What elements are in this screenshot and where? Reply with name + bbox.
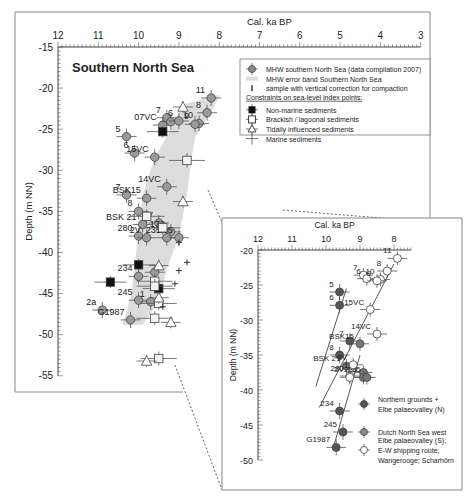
- x-tick-label: 12: [52, 30, 64, 41]
- legend-label: Marine sediments: [266, 136, 322, 143]
- x-tick-label: 8: [216, 30, 222, 41]
- legend-label: Dutch North Sea west: [378, 429, 446, 436]
- y-tick-label: -50: [39, 329, 54, 340]
- x-axis-label: Cal. ka BP: [314, 220, 354, 230]
- legend-label: Elbe palaeovalley (S);: [378, 437, 446, 445]
- y-tick-label: -30: [240, 316, 253, 326]
- y-tick-label: -25: [240, 281, 253, 291]
- legend-label: Elbe palaeovalley (N): [378, 406, 445, 414]
- point-label: 3V: [337, 353, 347, 362]
- point-label: 15VC: [344, 298, 364, 307]
- point-label: G1987: [306, 435, 331, 444]
- point-label: 9: [184, 111, 189, 121]
- y-tick-label: -45: [240, 421, 253, 431]
- point-label: 2V: [130, 225, 141, 235]
- point-label: 6: [168, 108, 173, 118]
- data-point: [137, 355, 157, 367]
- legend-label: MHW error band Southern North Sea: [266, 76, 382, 83]
- y-tick-label: -40: [39, 247, 54, 258]
- legend-heading: Constraints on sea-level index points:: [246, 94, 362, 102]
- point-label: 245: [118, 287, 133, 297]
- point-label: 07VC: [134, 112, 157, 122]
- point-label: 11: [196, 85, 205, 95]
- legend-label: E-W shipping route;: [378, 447, 440, 455]
- point-label: 2V: [334, 365, 344, 374]
- main-legend: MHW southern North Sea (data compilation…: [240, 59, 430, 145]
- x-tick-label: 11: [93, 30, 104, 41]
- y-tick-label: -35: [240, 351, 253, 361]
- y-tick-label: -30: [39, 165, 54, 176]
- x-tick-label: 8: [391, 234, 396, 244]
- y-axis-label: Depth (m NN): [228, 329, 238, 382]
- point-label: 245: [324, 420, 338, 429]
- y-axis-label: Depth (m NN): [23, 182, 34, 241]
- y-tick-label: -45: [39, 288, 54, 299]
- point-label: 2a: [86, 297, 96, 307]
- y-tick-label: -25: [39, 124, 54, 135]
- point-label: 11: [383, 246, 392, 255]
- point-label: 8: [329, 343, 334, 352]
- point-label: G1987: [98, 307, 125, 317]
- legend-label: Non-marine sediments: [266, 107, 337, 114]
- legend-label: Brackish / lagoonal sediments: [266, 116, 359, 124]
- x-tick-label: 4: [378, 30, 384, 41]
- y-tick-label: -20: [240, 246, 253, 256]
- point-label: 234: [320, 399, 334, 408]
- legend-label: Tidally influenced sediments: [266, 126, 354, 134]
- zoom-connector: [175, 365, 222, 490]
- point-label: 6: [356, 267, 361, 276]
- point-label: 5: [329, 280, 334, 289]
- point-label: 8: [128, 198, 133, 208]
- x-tick-label: 7: [257, 30, 263, 41]
- y-tick-label: -35: [39, 206, 54, 217]
- point-label: 6: [329, 293, 334, 302]
- legend-label: sample with vertical correction for comp…: [266, 85, 408, 93]
- point-label: 1: [140, 289, 145, 299]
- point-label: 15VC: [126, 144, 149, 154]
- zoom-connector: [208, 190, 222, 222]
- point-label: BSK15: [329, 332, 354, 341]
- x-tick-label: 9: [357, 234, 362, 244]
- point-label: 5: [115, 124, 120, 134]
- x-tick-label: 3: [418, 30, 424, 41]
- y-tick-label: -50: [240, 456, 253, 466]
- legend-label: Northern grounds +: [378, 396, 439, 404]
- point-label: 14VC: [351, 322, 371, 331]
- y-tick-label: -55: [39, 370, 54, 381]
- x-axis-label: Cal. ka BP: [247, 16, 292, 27]
- x-tick-label: 10: [133, 30, 145, 41]
- x-tick-label: 9: [176, 30, 182, 41]
- y-tick-label: -15: [39, 42, 54, 53]
- x-tick-label: 12: [253, 234, 263, 244]
- chart-title: Southern North Sea: [72, 60, 195, 75]
- grey-band-icon: [246, 77, 258, 81]
- point-label: 9: [367, 269, 372, 278]
- data-point: [184, 259, 190, 265]
- point-label: BSK15: [113, 185, 141, 195]
- x-tick-label: 11: [287, 234, 296, 244]
- point-label: 8: [196, 100, 201, 110]
- chart-canvas: 1211109876543Cal. ka BP-15-20-25-30-35-4…: [0, 0, 467, 501]
- legend-label: MHW southern North Sea (data compilation…: [266, 66, 421, 74]
- point-label: 14VC: [138, 174, 161, 184]
- x-tick-label: 6: [297, 30, 303, 41]
- x-tick-label: 5: [337, 30, 343, 41]
- data-point: [172, 281, 178, 287]
- y-tick-label: -20: [39, 83, 54, 94]
- point-label: 8: [377, 259, 382, 268]
- x-tick-label: 10: [321, 234, 331, 244]
- y-tick-label: -40: [240, 386, 253, 396]
- data-point: [176, 268, 182, 274]
- legend-label: Wangerooge; Scharhörn: [378, 457, 454, 465]
